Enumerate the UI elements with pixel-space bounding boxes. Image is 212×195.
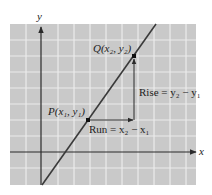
slope-diagram: y x Q(x₂, y₂) P(x₁, y₁) Rise = y₂ − y₁ R… — [0, 0, 212, 195]
y-axis-label: y — [36, 10, 42, 22]
run-label: Run = x₂ − x₁ — [89, 123, 150, 135]
point-p — [86, 118, 90, 122]
x-axis-label: x — [198, 145, 204, 157]
point-q-label: Q(x₂, y₂) — [93, 42, 132, 55]
rise-label: Rise = y₂ − y₁ — [139, 86, 201, 98]
point-p-label: P(x₁, y₁) — [47, 105, 85, 118]
point-q — [132, 54, 136, 58]
